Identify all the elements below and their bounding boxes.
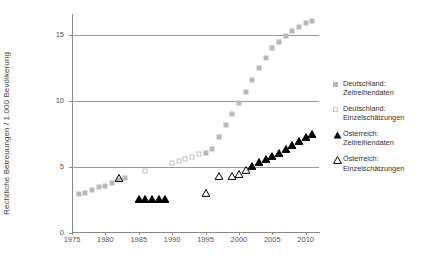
- legend-item-2[interactable]: Österreich:Zeitreihendaten: [333, 129, 431, 148]
- data-point: [214, 172, 223, 180]
- data-point: [83, 190, 88, 195]
- data-point: [90, 188, 95, 193]
- chart-container: Rechtliche Betreuungen / 1.000 Bevölkeru…: [0, 0, 433, 267]
- y-tick-label-15: 15: [38, 31, 64, 39]
- x-tick-mark-1995: [206, 232, 207, 235]
- data-point: [250, 77, 255, 82]
- legend-label-line1: Österreich:: [343, 154, 404, 163]
- legend-label-3: Österreich:Einzelschätzungen: [343, 154, 404, 173]
- open-square-icon: [333, 104, 342, 114]
- data-point: [216, 134, 221, 139]
- y-tick-mark-15: [69, 35, 72, 36]
- legend-label-line2: Einzelschätzungen: [343, 113, 404, 122]
- x-tick-mark-1985: [139, 232, 140, 235]
- data-point: [196, 151, 201, 156]
- y-tick-label-0: 0: [38, 229, 64, 237]
- data-point: [236, 101, 241, 106]
- open-triangle-icon: [333, 154, 342, 164]
- legend-label-line2: Zeitreihendaten: [343, 138, 394, 147]
- y-tick-label-10: 10: [38, 97, 64, 105]
- x-tick-mark-2005: [272, 232, 273, 235]
- x-tick-label-2005: 2005: [264, 236, 281, 244]
- x-tick-label-1975: 1975: [64, 236, 81, 244]
- data-point: [76, 192, 81, 197]
- legend-label-line2: Einzelschätzungen: [343, 164, 404, 173]
- data-point: [203, 151, 208, 156]
- x-axis-line: [72, 232, 320, 233]
- data-point: [210, 147, 215, 152]
- data-point: [96, 185, 101, 190]
- data-point: [176, 159, 181, 164]
- legend-label-line1: Österreich:: [343, 129, 394, 138]
- legend-item-1[interactable]: Deutschland:Einzelschätzungen: [333, 104, 431, 123]
- gridline-y-15: [72, 35, 319, 36]
- legend-item-0[interactable]: Deutschland:Zeitreihendaten: [333, 79, 431, 98]
- data-point: [161, 195, 170, 203]
- data-point: [270, 46, 275, 51]
- x-tick-mark-2000: [239, 232, 240, 235]
- x-tick-label-2010: 2010: [297, 236, 314, 244]
- legend-label-2: Österreich:Zeitreihendaten: [343, 129, 394, 148]
- data-point: [296, 25, 301, 30]
- legend-item-3[interactable]: Österreich:Einzelschätzungen: [333, 154, 431, 173]
- data-point: [170, 161, 175, 166]
- y-tick-mark-5: [69, 167, 72, 168]
- filled-triangle-icon: [333, 129, 342, 139]
- data-point: [123, 176, 128, 181]
- y-axis-line: [72, 14, 73, 233]
- legend-label-1: Deutschland:Einzelschätzungen: [343, 104, 404, 123]
- legend-label-line1: Deutschland:: [343, 104, 404, 113]
- data-point: [183, 157, 188, 162]
- legend-label-0: Deutschland:Zeitreihendaten: [343, 79, 394, 98]
- y-axis-title-text: Rechtliche Betreuungen / 1.000 Bevölkeru…: [2, 52, 11, 215]
- gridline-y-5: [72, 167, 319, 168]
- data-point: [256, 66, 261, 71]
- data-point: [263, 55, 268, 60]
- data-point: [241, 166, 250, 174]
- x-tick-label-1985: 1985: [130, 236, 147, 244]
- data-point: [308, 130, 317, 138]
- y-axis-title: Rechtliche Betreuungen / 1.000 Bevölkeru…: [0, 0, 14, 267]
- gridline-y-10: [72, 101, 319, 102]
- data-point: [143, 168, 148, 173]
- x-tick-label-1980: 1980: [97, 236, 114, 244]
- x-tick-label-1990: 1990: [164, 236, 181, 244]
- data-point: [290, 29, 295, 34]
- x-tick-mark-1980: [105, 232, 106, 235]
- data-point: [276, 39, 281, 44]
- data-point: [190, 155, 195, 160]
- data-point: [283, 34, 288, 39]
- data-point: [201, 189, 210, 197]
- x-tick-mark-1990: [172, 232, 173, 235]
- y-tick-mark-10: [69, 101, 72, 102]
- y-tick-label-5: 5: [38, 163, 64, 171]
- legend-label-line2: Zeitreihendaten: [343, 88, 394, 97]
- data-point: [114, 174, 123, 182]
- data-point: [230, 112, 235, 117]
- x-tick-mark-2010: [306, 232, 307, 235]
- data-point: [303, 21, 308, 26]
- x-tick-mark-1975: [72, 232, 73, 235]
- x-tick-label-1995: 1995: [197, 236, 214, 244]
- chart-legend: Deutschland:ZeitreihendatenDeutschland:E…: [333, 79, 431, 179]
- x-tick-label-2000: 2000: [231, 236, 248, 244]
- data-point: [243, 89, 248, 94]
- data-point: [310, 18, 315, 23]
- legend-label-line1: Deutschland:: [343, 79, 394, 88]
- filled-square-icon: [333, 79, 342, 89]
- data-point: [223, 123, 228, 128]
- data-point: [103, 183, 108, 188]
